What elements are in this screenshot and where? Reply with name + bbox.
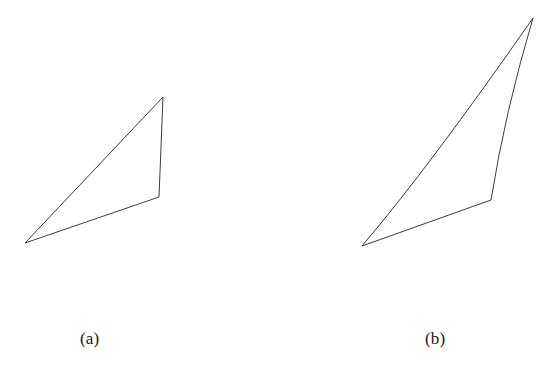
panel-label-b: (b): [425, 329, 445, 349]
figure-canvas: [0, 0, 555, 378]
figure-background: [0, 0, 555, 378]
panel-label-a: (a): [80, 329, 99, 349]
